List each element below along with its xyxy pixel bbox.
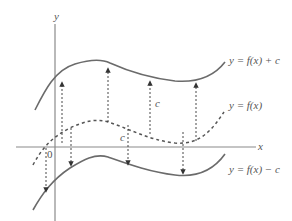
- curve-shifted-up: [35, 60, 225, 110]
- label-original: y = f(x): [229, 100, 262, 111]
- shift-label-down: c: [120, 132, 125, 143]
- vertical-shift-diagram: y x 0 y = f(x) + c y = f(x) y = f(x) − c…: [0, 0, 292, 221]
- shift-label-up: c: [155, 98, 160, 109]
- curve-shifted-down: [33, 154, 225, 210]
- label-shifted-down: y = f(x) − c: [229, 164, 280, 175]
- y-axis-label: y: [54, 11, 59, 22]
- down-arrows: [46, 125, 183, 190]
- label-shifted-up: y = f(x) + c: [229, 55, 280, 66]
- origin-label: 0: [47, 149, 53, 160]
- x-axis-label: x: [258, 141, 263, 152]
